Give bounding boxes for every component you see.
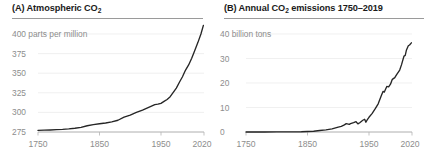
ytick-label-30: 30	[220, 54, 230, 64]
xtick-label-2020: 2020	[192, 139, 211, 149]
panel-b-title-prefix: (B) Annual CO	[224, 3, 285, 13]
xtick-label-1750: 1750	[236, 139, 255, 149]
panel-b-svg: 40 billion tons 30 20 10 0 1750 1850 195…	[212, 20, 424, 155]
xtick-label-1850: 1850	[298, 139, 317, 149]
panel-b-title-rule	[224, 18, 424, 19]
panel-annual-emissions: (B) Annual CO2 emissions 1750–2019 40 bi…	[212, 0, 424, 155]
annual-emissions-line	[246, 43, 411, 132]
co2-figure: (A) Atmospheric CO2 400 parts per millio…	[0, 0, 424, 155]
ytick-label-275: 275	[12, 127, 26, 137]
panel-a-svg: 400 parts per million 375 350 325 300 27…	[0, 20, 212, 155]
xtick-label-1950: 1950	[359, 139, 378, 149]
panel-a-title-subscript: 2	[98, 7, 102, 14]
panel-b-gridlines	[246, 34, 412, 108]
panel-a-xtick-labels: 1750 1850 1950 2020	[28, 139, 211, 149]
ytick-label-375: 375	[12, 49, 26, 59]
panel-b-xtick-labels: 1750 1850 1950 2020	[236, 139, 419, 149]
panel-a-title-prefix: (A) Atmospheric CO	[12, 3, 98, 13]
panel-b-title: (B) Annual CO2 emissions 1750–2019	[224, 3, 383, 13]
panel-a-gridlines	[38, 34, 204, 112]
panel-atmospheric-co2: (A) Atmospheric CO2 400 parts per millio…	[0, 0, 212, 155]
panel-b-title-subscript: 2	[285, 7, 289, 14]
panel-a-title: (A) Atmospheric CO2	[12, 3, 101, 13]
xtick-label-1950: 1950	[151, 139, 170, 149]
ytick-label-40: 40 billion tons	[220, 29, 271, 39]
panel-a-title-rule	[12, 18, 203, 19]
panel-a-plot: 400 parts per million 375 350 325 300 27…	[0, 20, 212, 155]
xtick-label-1850: 1850	[90, 139, 109, 149]
panel-b-plot: 40 billion tons 30 20 10 0 1750 1850 195…	[212, 20, 424, 155]
ytick-label-20: 20	[220, 78, 230, 88]
ytick-label-400: 400 parts per million	[12, 29, 88, 39]
panel-a-tickmarks	[38, 132, 204, 136]
panel-b-title-suffix: emissions 1750–2019	[289, 3, 383, 13]
ytick-label-10: 10	[220, 103, 230, 113]
ytick-label-300: 300	[12, 107, 26, 117]
co2-concentration-line	[38, 25, 203, 130]
xtick-label-1750: 1750	[28, 139, 47, 149]
panel-a-ytick-labels: 400 parts per million 375 350 325 300 27…	[12, 29, 88, 137]
ytick-label-0: 0	[220, 127, 225, 137]
ytick-label-325: 325	[12, 88, 26, 98]
ytick-label-350: 350	[12, 68, 26, 78]
xtick-label-2020: 2020	[400, 139, 419, 149]
